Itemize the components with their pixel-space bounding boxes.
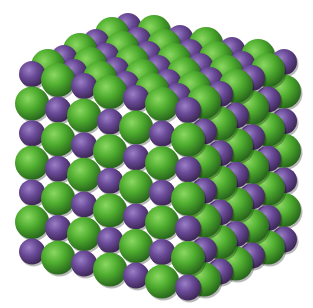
sodium-ion-sphere (71, 251, 97, 277)
sodium-ion-sphere (71, 132, 97, 158)
sodium-ion-sphere (45, 156, 71, 182)
sodium-ion-sphere (71, 73, 97, 99)
chloride-ion-sphere (119, 111, 153, 145)
sodium-ion-sphere (175, 97, 201, 123)
sodium-ion-sphere (45, 215, 71, 241)
sodium-ion-sphere (97, 227, 123, 253)
sodium-ion-sphere (149, 239, 175, 265)
sodium-ion-sphere (97, 168, 123, 194)
sodium-ion-sphere (19, 61, 45, 87)
sodium-ion-sphere (19, 239, 45, 265)
chloride-ion-sphere (119, 170, 153, 204)
chloride-ion-sphere (171, 123, 205, 157)
chloride-ion-sphere (15, 87, 49, 121)
sodium-ion-sphere (123, 263, 149, 289)
sodium-ion-sphere (149, 121, 175, 147)
chloride-ion-sphere (41, 241, 75, 275)
chloride-ion-sphere (93, 253, 127, 287)
sodium-ion-sphere (19, 179, 45, 205)
sodium-ion-sphere (123, 203, 149, 229)
chloride-ion-sphere (41, 122, 75, 156)
chloride-ion-sphere (145, 205, 179, 239)
chloride-ion-sphere (93, 75, 127, 109)
chloride-ion-sphere (15, 205, 49, 239)
chloride-ion-sphere (93, 134, 127, 168)
sodium-ion-sphere (97, 109, 123, 135)
sodium-ion-sphere (45, 97, 71, 123)
chloride-ion-sphere (41, 181, 75, 215)
chloride-ion-sphere (145, 265, 179, 299)
sodium-ion-sphere (149, 180, 175, 206)
sodium-ion-sphere (123, 85, 149, 111)
sodium-ion-sphere (175, 156, 201, 182)
chloride-ion-sphere (145, 87, 179, 121)
crystal-lattice-image (0, 0, 313, 308)
chloride-ion-sphere (171, 241, 205, 275)
sodium-ion-sphere (175, 275, 201, 301)
sodium-ion-sphere (19, 120, 45, 146)
chloride-ion-sphere (41, 63, 75, 97)
chloride-ion-sphere (67, 99, 101, 133)
chloride-ion-sphere (119, 229, 153, 263)
sodium-ion-sphere (71, 191, 97, 217)
chloride-ion-sphere (67, 158, 101, 192)
lattice-spheres (15, 13, 303, 303)
sodium-ion-sphere (175, 215, 201, 241)
chloride-ion-sphere (93, 193, 127, 227)
chloride-ion-sphere (67, 217, 101, 251)
chloride-ion-sphere (171, 182, 205, 216)
chloride-ion-sphere (145, 146, 179, 180)
sodium-ion-sphere (123, 144, 149, 170)
chloride-ion-sphere (15, 146, 49, 180)
